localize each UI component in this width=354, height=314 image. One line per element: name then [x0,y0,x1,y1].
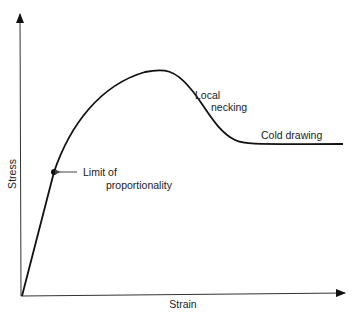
x-axis-label: Strain [169,298,197,310]
y-axis-label: Stress [6,159,18,189]
stress-strain-diagram: Strain Stress Limit of proportionality L… [0,0,354,314]
stress-strain-curve [22,70,343,296]
x-axis [21,293,345,296]
limit-label-line2: proportionality [106,179,173,191]
cold-drawing-label: Cold drawing [261,129,322,141]
limit-of-proportionality-point [51,169,57,175]
y-axis [20,14,21,296]
necking-label-line1: Local [195,89,220,101]
limit-label-line1: Limit of [83,166,117,178]
necking-label-line2: necking [211,101,247,113]
